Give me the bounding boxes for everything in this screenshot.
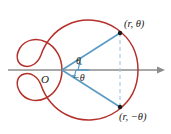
label-origin: O: [41, 74, 49, 85]
ray-lower: [62, 70, 120, 107]
point-marker-upper: [118, 31, 122, 35]
label-point-upper: (r, θ): [124, 19, 144, 30]
ray-upper: [62, 33, 120, 70]
point-marker-lower: [118, 105, 122, 109]
label-point-lower: (r, −θ): [119, 112, 146, 123]
polar-figure: (r, θ) (r, −θ) O θ −θ: [0, 0, 171, 134]
label-angle-negative: −θ: [73, 73, 85, 83]
axis-arrowhead-icon: [157, 67, 165, 74]
label-angle-positive: θ: [76, 56, 81, 66]
